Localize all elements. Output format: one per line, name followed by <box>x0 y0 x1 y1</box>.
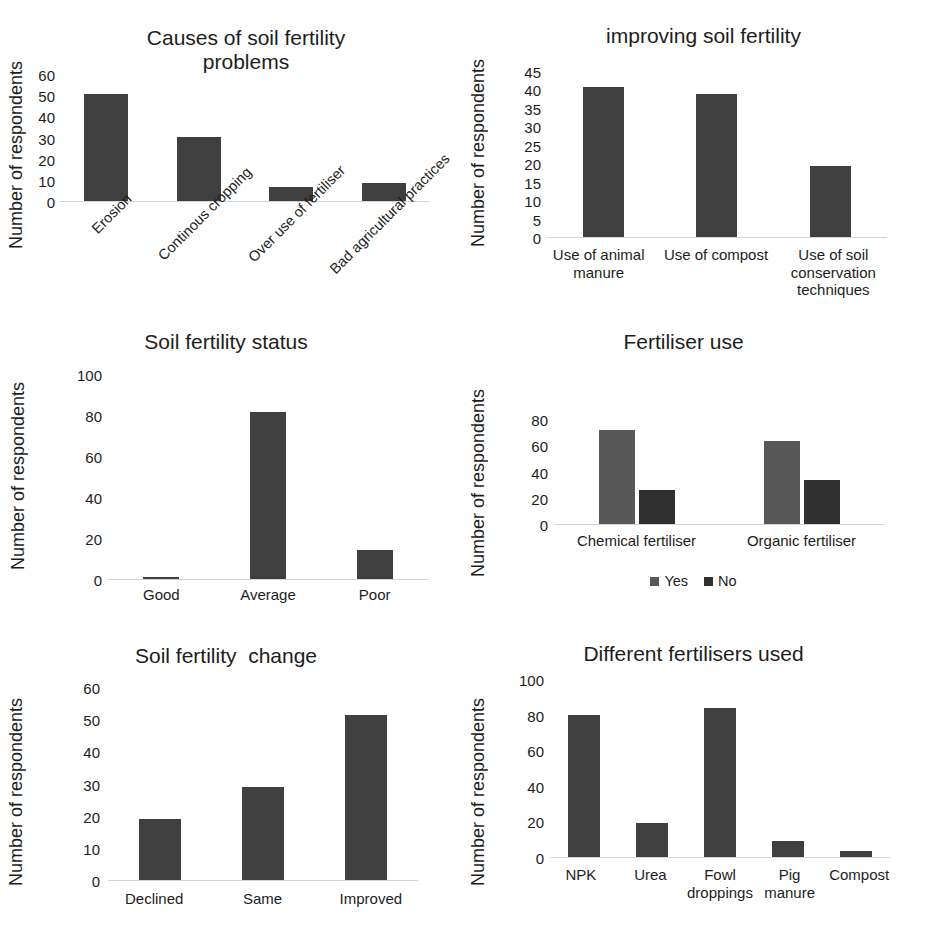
legend-label: Yes <box>664 573 688 589</box>
y-tick: 0 <box>533 230 541 247</box>
bar-use-of-animal-manure <box>583 87 624 237</box>
plot-area: 0 20 40 60 80 <box>554 420 884 525</box>
y-tick: 15 <box>524 174 541 191</box>
x-tick-label: Chemical fertiliser <box>554 532 719 550</box>
bar-chemical-yes <box>599 430 635 524</box>
bar-series <box>547 72 887 237</box>
plot-area: 0 20 40 60 80 100 <box>108 375 428 580</box>
bar-same <box>242 787 284 880</box>
bar-slot <box>321 375 428 579</box>
y-tick: 10 <box>83 840 100 857</box>
x-tick-label: Organic fertiliser <box>719 532 884 550</box>
x-axis-labels: NPK Urea Fowl droppings Pig manure Compo… <box>546 866 894 901</box>
x-tick-label: Good <box>108 586 215 604</box>
x-axis-line <box>554 524 884 525</box>
bar-slot <box>754 680 822 857</box>
y-tick: 30 <box>83 776 100 793</box>
bar-group-chemical-fertiliser <box>554 420 719 524</box>
y-axis-ticks: 0 5 10 15 20 25 30 35 40 45 <box>513 72 541 238</box>
y-axis-ticks: 0 10 20 30 40 50 60 <box>25 75 55 202</box>
bar-slot <box>686 680 754 857</box>
chart-panel-causes-of-soil-fertility-problems: Causes of soil fertility problems Number… <box>0 0 462 320</box>
bar-slot <box>315 688 418 880</box>
plot-area: 0 5 10 15 20 25 30 35 40 45 <box>547 72 887 238</box>
y-tick: 60 <box>531 438 548 455</box>
legend-item-yes[interactable]: Yes <box>650 573 688 589</box>
y-axis-ticks: 0 10 20 30 40 50 60 <box>66 688 100 881</box>
y-tick: 35 <box>524 100 541 117</box>
bar-slot <box>108 375 215 579</box>
y-tick: 100 <box>519 672 544 689</box>
y-tick: 0 <box>47 194 55 211</box>
legend-item-no[interactable]: No <box>704 573 737 589</box>
bar-improved <box>345 715 387 880</box>
y-tick: 30 <box>524 119 541 136</box>
y-tick: 20 <box>531 490 548 507</box>
chart-title: Causes of soil fertility problems <box>40 26 452 73</box>
bar-series <box>108 688 418 880</box>
bar-declined <box>139 819 181 880</box>
y-tick: 25 <box>524 137 541 154</box>
plot-area: 0 20 40 60 80 100 <box>550 680 890 858</box>
bar-series <box>554 420 884 524</box>
x-axis-line <box>108 880 418 881</box>
bar-slot <box>550 680 618 857</box>
bar-series <box>108 375 428 579</box>
y-tick: 60 <box>83 680 100 697</box>
bar-slot <box>60 75 153 201</box>
legend-swatch-icon <box>650 577 659 586</box>
x-axis-labels: Chemical fertiliser Organic fertiliser <box>554 532 884 550</box>
chart-title: Soil fertility change <box>30 644 422 668</box>
y-tick: 5 <box>533 211 541 228</box>
y-tick: 10 <box>38 172 55 189</box>
x-tick-label: Average <box>215 586 322 604</box>
bar-group-organic-fertiliser <box>719 420 884 524</box>
y-tick: 100 <box>77 367 102 384</box>
x-tick-label: Fowl droppings <box>685 866 755 901</box>
y-tick: 0 <box>540 517 548 534</box>
bar-organic-no <box>804 480 840 524</box>
y-tick: 45 <box>524 64 541 81</box>
bar-npk <box>568 715 600 857</box>
y-tick: 60 <box>85 449 102 466</box>
y-axis-ticks: 0 20 40 60 80 100 <box>60 375 102 580</box>
bar-slot <box>774 72 887 237</box>
y-tick: 0 <box>94 572 102 589</box>
bar-pig-manure <box>772 841 804 857</box>
x-tick-label: Use of animal manure <box>540 246 657 299</box>
y-tick: 40 <box>38 109 55 126</box>
bar-use-of-soil-conservation-techniques <box>810 166 851 237</box>
bar-slot <box>108 688 211 880</box>
x-tick-label: Use of soil conservation techniques <box>775 246 892 299</box>
y-axis-label: Number of respondents <box>468 378 490 588</box>
x-axis-line <box>547 237 887 238</box>
y-tick: 40 <box>85 490 102 507</box>
y-tick: 80 <box>531 412 548 429</box>
bar-urea <box>636 823 668 857</box>
y-axis-label: Number of respondents <box>468 682 490 902</box>
bar-slot <box>822 680 890 857</box>
bar-slot <box>215 375 322 579</box>
y-tick: 60 <box>38 67 55 84</box>
y-tick: 20 <box>38 151 55 168</box>
y-tick: 20 <box>524 156 541 173</box>
x-tick-label: NPK <box>546 866 616 901</box>
bar-slot <box>660 72 773 237</box>
bar-fowl-droppings <box>704 708 736 857</box>
x-axis-labels: Good Average Poor <box>108 586 428 604</box>
y-tick: 40 <box>83 744 100 761</box>
bar-chemical-no <box>639 490 675 524</box>
x-tick-label: Pig manure <box>755 866 825 901</box>
y-tick: 50 <box>38 88 55 105</box>
y-tick: 40 <box>527 778 544 795</box>
y-tick: 10 <box>524 193 541 210</box>
chart-panel-fertiliser-use: Fertiliser use Number of respondents 0 2… <box>462 320 925 632</box>
x-tick-label: Poor <box>321 586 428 604</box>
x-tick-label: Improved <box>317 890 425 908</box>
y-axis-label: Number of respondents <box>468 58 490 248</box>
y-axis-ticks: 0 20 40 60 80 <box>514 420 548 525</box>
y-tick: 40 <box>531 464 548 481</box>
chart-panel-different-fertilisers-used: Different fertilisers used Number of res… <box>462 632 925 946</box>
bar-series <box>550 680 890 857</box>
bar-erosion <box>84 94 128 201</box>
